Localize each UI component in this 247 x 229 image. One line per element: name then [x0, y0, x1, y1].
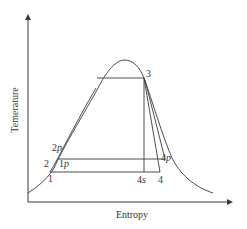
label-point-1p: 1p [59, 158, 69, 169]
x-axis-title: Entropy [116, 209, 148, 220]
expansion-3-4p [145, 80, 165, 159]
expansion-3-4 [144, 78, 160, 172]
label-point-4s: 4s [137, 174, 146, 185]
label-point-2: 2 [44, 158, 49, 169]
y-axis-title: Temerature [9, 87, 20, 133]
label-point-3: 3 [146, 68, 151, 79]
ts-diagram: Temerature Entropy 2p 2 1p 1 3 4p 4s 4 [0, 0, 247, 229]
label-point-4p: 4p [161, 152, 171, 163]
label-point-1: 1 [48, 173, 53, 184]
saturated-liquid-curve [28, 60, 124, 193]
label-point-2p: 2p [52, 142, 62, 153]
label-point-4: 4 [158, 174, 163, 185]
